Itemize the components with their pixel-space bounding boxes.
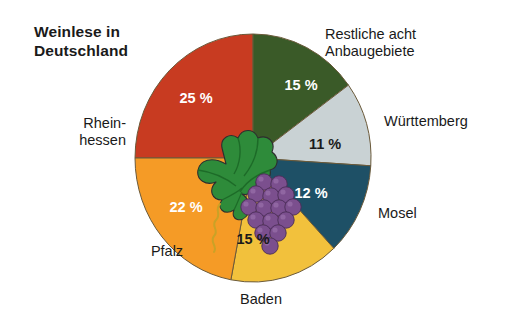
slice-label-mosel: Mosel [378,205,417,222]
slice-value-mosel: 12 % [294,185,327,201]
slice-label-baden: Baden [240,291,282,308]
page-title: Weinlese in Deutschland [34,22,128,60]
slice-value-baden: 15 % [236,231,269,247]
slice-value-w-rttemberg: 11 % [309,136,341,152]
pie-chart-figure: Weinlese in Deutschland [0,0,515,326]
slice-value-pfalz: 22 % [169,199,202,215]
slice-label-restliche-acht-anbaugebiete: Restliche acht Anbaugebiete [325,26,416,61]
slice-label-pfalz: Pfalz [151,243,183,260]
slice-label-rheinhessen: Rhein- hessen [79,115,126,150]
slice-value-restliche-acht-anbaugebiete: 15 % [284,77,317,93]
slice-label-w-rttemberg: Württemberg [384,113,468,130]
slice-value-rheinhessen: 25 % [179,90,212,106]
